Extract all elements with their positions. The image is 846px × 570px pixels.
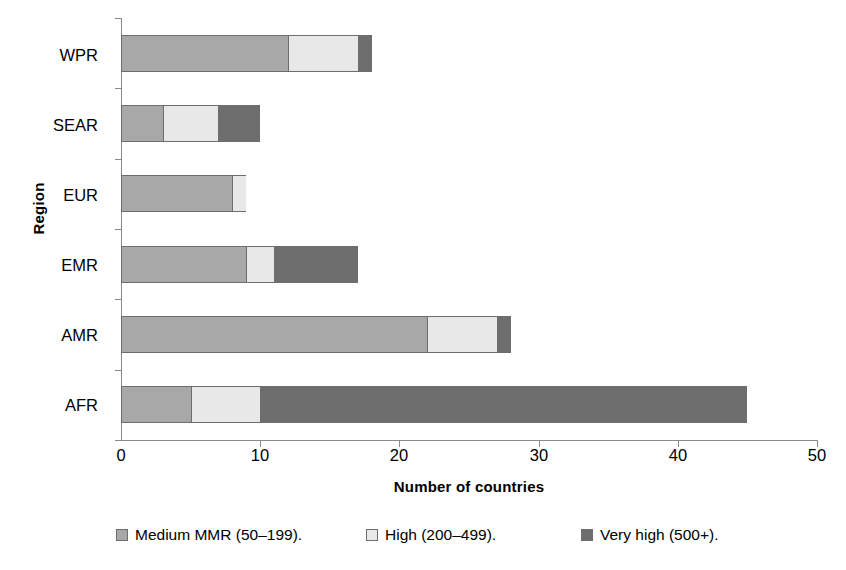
y-axis-tick xyxy=(115,229,121,230)
bar-segment-sear-s2 xyxy=(218,105,260,142)
legend-swatch-icon-0 xyxy=(116,529,128,541)
x-axis-tick-labels: 0 10 20 30 40 50 xyxy=(121,447,821,471)
legend-swatch-icon-2 xyxy=(581,529,593,541)
bar-wpr xyxy=(121,35,372,72)
x-axis-line xyxy=(121,440,818,441)
plot-area xyxy=(121,18,817,440)
legend-label-2: Very high (500+). xyxy=(600,527,718,543)
bar-segment-emr-s0 xyxy=(121,246,246,283)
bar-segment-emr-s1 xyxy=(246,246,274,283)
bar-segment-afr-s2 xyxy=(260,386,747,423)
y-axis-tick xyxy=(115,370,121,371)
y-axis-tick xyxy=(115,299,121,300)
bar-segment-afr-s0 xyxy=(121,386,191,423)
bar-segment-afr-s1 xyxy=(191,386,261,423)
x-tick-label-40: 40 xyxy=(648,447,708,464)
legend-label-1: High (200–499). xyxy=(385,527,496,543)
legend-item-1[interactable]: High (200–499). xyxy=(366,522,581,548)
bar-segment-emr-s2 xyxy=(274,246,358,283)
bar-segment-eur-s1 xyxy=(232,175,246,212)
x-axis-title: Number of countries xyxy=(121,478,817,495)
bar-eur xyxy=(121,175,246,212)
y-tick-label-sear: SEAR xyxy=(0,117,98,134)
y-axis-line xyxy=(121,18,122,440)
bar-emr xyxy=(121,246,358,283)
bar-sear xyxy=(121,105,260,142)
bar-segment-eur-s0 xyxy=(121,175,232,212)
bar-segment-amr-s1 xyxy=(427,316,497,353)
y-tick-label-wpr: WPR xyxy=(0,47,98,64)
bar-amr xyxy=(121,316,511,353)
x-tick-label-20: 20 xyxy=(369,447,429,464)
y-tick-label-eur: EUR xyxy=(0,187,98,204)
bar-segment-sear-s0 xyxy=(121,105,163,142)
legend-item-0[interactable]: Medium MMR (50–199). xyxy=(116,522,366,548)
y-axis-tick xyxy=(115,159,121,160)
legend-label-0: Medium MMR (50–199). xyxy=(135,527,302,543)
y-tick-label-amr: AMR xyxy=(0,327,98,344)
bar-segment-amr-s2 xyxy=(497,316,511,353)
bar-segment-amr-s0 xyxy=(121,316,427,353)
chart-legend: Medium MMR (50–199).High (200–499).Very … xyxy=(116,522,816,548)
x-axis-tick xyxy=(121,433,122,441)
bar-segment-wpr-s2 xyxy=(358,35,372,72)
bar-afr xyxy=(121,386,747,423)
legend-swatch-icon-1 xyxy=(366,529,378,541)
bar-segment-wpr-s0 xyxy=(121,35,288,72)
bar-segment-wpr-s1 xyxy=(288,35,358,72)
x-tick-label-10: 10 xyxy=(230,447,290,464)
x-tick-label-30: 30 xyxy=(509,447,569,464)
y-tick-label-afr: AFR xyxy=(0,397,98,414)
y-tick-label-emr: EMR xyxy=(0,257,98,274)
bar-segment-sear-s1 xyxy=(163,105,219,142)
y-axis-tick-labels: WPR SEAR EUR EMR AMR AFR xyxy=(0,18,110,440)
y-axis-tick xyxy=(115,88,121,89)
stacked-bar-chart: Region WPR SEAR EUR EMR AMR AFR 0 10 20 … xyxy=(0,0,846,570)
y-axis-tick xyxy=(115,18,121,19)
legend-item-2[interactable]: Very high (500+). xyxy=(581,522,811,548)
x-tick-label-0: 0 xyxy=(91,447,151,464)
x-tick-label-50: 50 xyxy=(787,447,846,464)
